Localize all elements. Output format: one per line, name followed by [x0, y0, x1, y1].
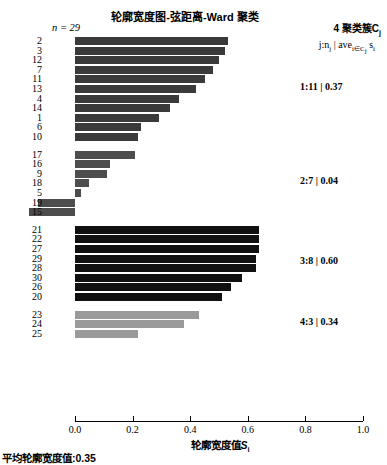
silhouette-bar — [75, 245, 259, 253]
silhouette-bar — [75, 75, 205, 83]
silhouette-bar — [75, 133, 138, 141]
silhouette-bar — [75, 56, 219, 64]
silhouette-bar — [75, 114, 159, 122]
chart-title: 轮廓宽度图-弦距离-Ward 聚类 — [60, 8, 310, 24]
silhouette-bar — [75, 123, 141, 131]
silhouette-bar — [75, 170, 107, 178]
legend-title: 4 聚类簇Cj — [333, 23, 381, 34]
silhouette-bar — [75, 283, 231, 291]
x-tick-label: 0.6 — [228, 424, 268, 435]
x-tick-label: 0.2 — [113, 424, 153, 435]
x-tick — [248, 416, 249, 421]
legend-subtitle: j:nj | avei∈Cj si — [319, 39, 375, 55]
silhouette-plot: 轮廓宽度图-弦距离-Ward 聚类 n = 29 4 聚类簇Cj j:nj | … — [0, 0, 387, 465]
silhouette-bar — [75, 255, 256, 263]
x-tick — [190, 416, 191, 421]
observation-label: 14 — [0, 103, 42, 113]
observation-label: 18 — [0, 178, 42, 188]
x-axis-line — [75, 421, 363, 422]
x-tick — [75, 416, 76, 421]
x-tick-label: 0.8 — [285, 424, 325, 435]
silhouette-bar — [75, 320, 184, 328]
x-tick — [363, 416, 364, 421]
x-tick — [133, 416, 134, 421]
silhouette-bar — [75, 189, 81, 197]
x-tick-label: 0.4 — [170, 424, 210, 435]
observation-label: 12 — [0, 55, 42, 65]
silhouette-bar — [75, 47, 225, 55]
observation-label: 2 — [0, 36, 42, 46]
observation-label: 10 — [0, 132, 42, 142]
x-tick-label: 1.0 — [343, 424, 383, 435]
mean-silhouette-footnote: 平均轮廓宽度值:0.35 — [2, 450, 96, 465]
cluster-annotation: 3:8 | 0.60 — [300, 255, 338, 266]
silhouette-bar — [75, 160, 110, 168]
silhouette-bar — [75, 104, 170, 112]
sample-size-label: n = 29 — [52, 22, 80, 33]
observation-label: 25 — [0, 329, 42, 339]
x-axis-label: 轮廓宽度值Si — [130, 437, 310, 453]
silhouette-bar — [75, 85, 196, 93]
observation-label: 20 — [0, 292, 42, 302]
cluster-annotation: 2:7 | 0.04 — [300, 175, 338, 186]
silhouette-bar — [75, 274, 242, 282]
silhouette-bar — [75, 293, 222, 301]
x-tick-label: 0.0 — [55, 424, 95, 435]
silhouette-bar — [38, 199, 75, 207]
silhouette-bar — [75, 179, 89, 187]
legend-header: 4 聚类簇Cj j:nj | avei∈Cj si — [319, 20, 381, 55]
silhouette-bar — [75, 330, 138, 338]
silhouette-bar — [75, 95, 179, 103]
silhouette-bar — [75, 235, 259, 243]
silhouette-bar — [75, 66, 213, 74]
silhouette-bar — [75, 151, 135, 159]
cluster-annotation: 4:3 | 0.34 — [300, 316, 338, 327]
observation-label: 1 — [0, 113, 42, 123]
silhouette-bar — [75, 37, 228, 45]
silhouette-bar — [75, 264, 256, 272]
cluster-annotation: 1:11 | 0.37 — [300, 81, 342, 92]
observation-label: 13 — [0, 84, 42, 94]
observation-label: 16 — [0, 159, 42, 169]
x-tick — [305, 416, 306, 421]
silhouette-bar — [75, 311, 199, 319]
observation-label: 15 — [0, 207, 42, 217]
silhouette-bar — [75, 226, 259, 234]
